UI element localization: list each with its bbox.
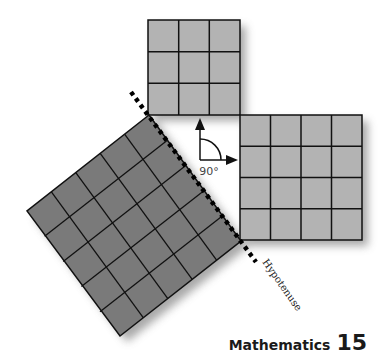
book-title: Mathematics	[229, 337, 331, 353]
arrow-heads	[195, 118, 238, 165]
page-number: 15	[336, 330, 367, 355]
page-footer: Mathematics 15	[229, 330, 367, 355]
pythagoras-diagram: 90° Hypotenuse	[0, 0, 391, 363]
angle-label: 90°	[199, 165, 219, 178]
top-square-3x3	[148, 20, 240, 115]
hypotenuse-label: Hypotenuse	[260, 257, 304, 313]
hypotenuse-square-5x5	[27, 115, 241, 336]
right-angle-marker	[200, 128, 228, 160]
right-square-4x4	[240, 115, 362, 240]
